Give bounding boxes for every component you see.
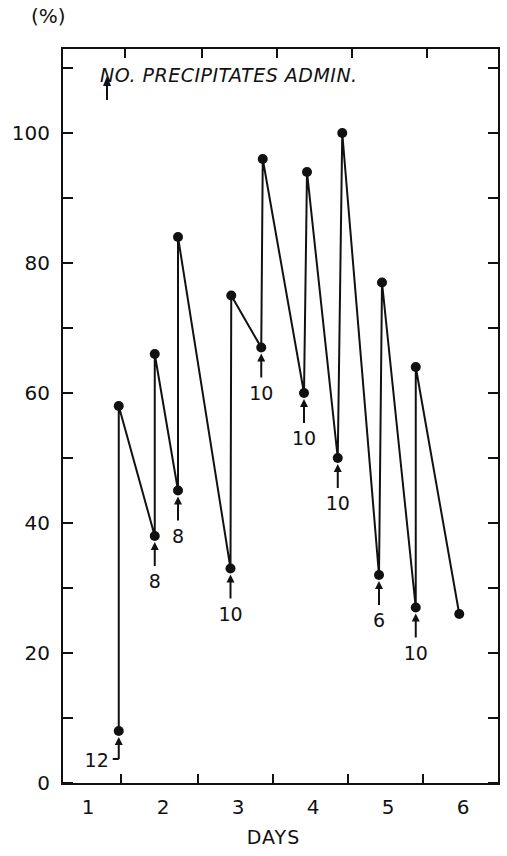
x-tick-label: 1 bbox=[82, 795, 95, 819]
data-point bbox=[256, 343, 266, 353]
y-tick-label: 40 bbox=[25, 511, 50, 535]
y-tick-label: 0 bbox=[37, 771, 50, 795]
annotation-arrow-icon bbox=[375, 581, 383, 589]
data-point bbox=[454, 609, 464, 619]
data-point bbox=[411, 603, 421, 613]
x-tick-label: 5 bbox=[382, 795, 395, 819]
annotation-arrow-icon bbox=[115, 737, 123, 745]
x-tick-label: 2 bbox=[157, 795, 170, 819]
data-point bbox=[258, 154, 268, 164]
x-tick-label: 4 bbox=[307, 795, 320, 819]
data-point bbox=[114, 401, 124, 411]
annotation-label: 6 bbox=[373, 609, 385, 631]
data-point bbox=[302, 167, 312, 177]
annotation-arrow-icon bbox=[300, 399, 308, 407]
legend-text: NO. PRECIPITATES ADMIN. bbox=[100, 64, 358, 86]
data-point bbox=[411, 362, 421, 372]
y-tick-label: 80 bbox=[25, 251, 50, 275]
annotation-arrow-icon bbox=[227, 575, 235, 583]
data-point bbox=[114, 726, 124, 736]
data-point bbox=[337, 128, 347, 138]
annotation-label: 12 bbox=[85, 749, 109, 771]
annotation-arrow-icon bbox=[174, 497, 182, 505]
plot-frame bbox=[62, 48, 499, 784]
y-tick-label: 100 bbox=[12, 121, 50, 145]
chart-plot: 020406080100123456128810101010610 bbox=[0, 0, 507, 856]
data-point bbox=[333, 453, 343, 463]
data-point bbox=[173, 486, 183, 496]
annotation-label: 8 bbox=[149, 570, 161, 592]
data-point bbox=[374, 570, 384, 580]
data-point bbox=[226, 291, 236, 301]
annotation-label: 10 bbox=[249, 382, 273, 404]
data-point bbox=[173, 232, 183, 242]
x-tick-label: 6 bbox=[457, 795, 470, 819]
x-tick-label: 3 bbox=[232, 795, 245, 819]
annotation-label: 10 bbox=[404, 642, 428, 664]
data-point bbox=[377, 278, 387, 288]
annotation-arrow-icon bbox=[151, 542, 159, 550]
annotation-arrow-icon bbox=[257, 354, 265, 362]
y-tick-label: 60 bbox=[25, 381, 50, 405]
data-point bbox=[150, 349, 160, 359]
y-axis-unit-label: (%) bbox=[31, 4, 66, 28]
annotation-label: 10 bbox=[218, 603, 242, 625]
data-point bbox=[150, 531, 160, 541]
annotation-arrow-icon bbox=[334, 464, 342, 472]
y-tick-label: 20 bbox=[25, 641, 50, 665]
annotation-arrow-icon bbox=[412, 614, 420, 622]
annotation-label: 10 bbox=[326, 492, 350, 514]
annotation-label: 10 bbox=[292, 427, 316, 449]
data-point bbox=[226, 564, 236, 574]
data-point bbox=[299, 388, 309, 398]
annotation-label: 8 bbox=[172, 525, 184, 547]
x-axis-label: DAYS bbox=[0, 826, 507, 848]
